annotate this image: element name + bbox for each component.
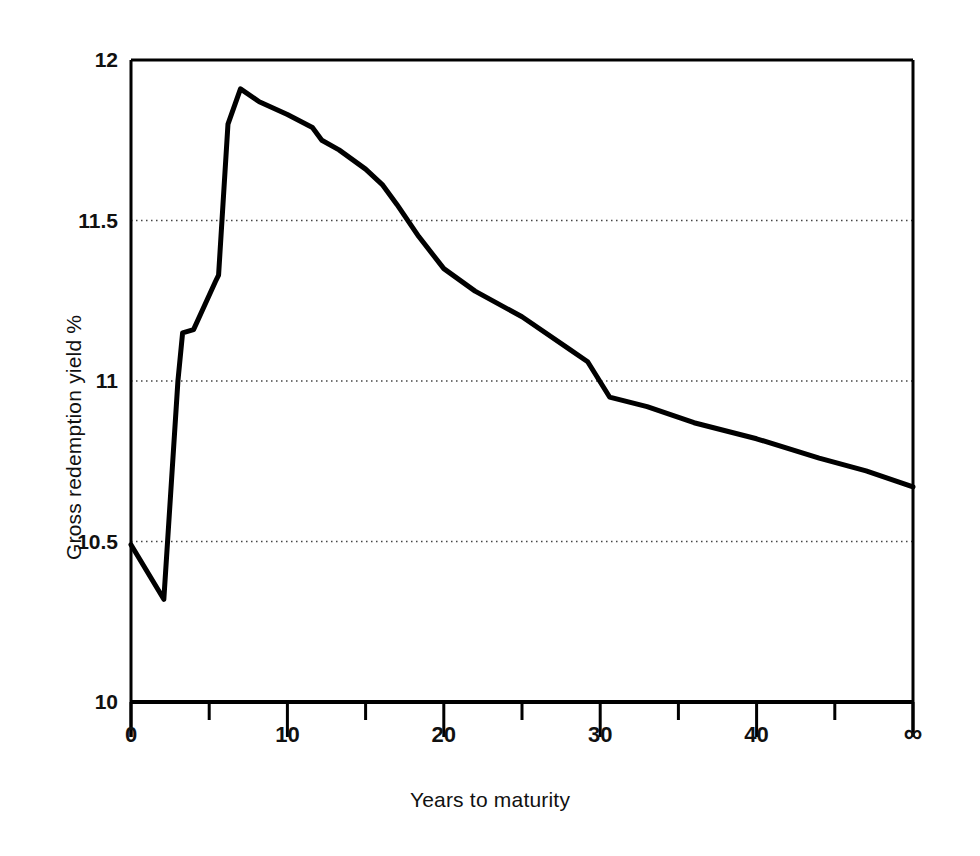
x-tick-label: ∞ <box>883 722 943 744</box>
y-tick-label: 10 <box>48 690 118 714</box>
x-axis-title: Years to maturity <box>0 788 980 812</box>
x-tick-label: 0 <box>101 722 161 748</box>
x-axis-ticks <box>131 702 913 737</box>
x-tick-label: 10 <box>257 722 317 748</box>
x-tick-label: 30 <box>570 722 630 748</box>
x-tick-label: 20 <box>414 722 474 748</box>
yield-curve-line <box>131 89 913 599</box>
y-tick-label: 11.5 <box>48 209 118 233</box>
gridlines <box>131 221 913 542</box>
y-tick-label: 11 <box>48 369 118 393</box>
y-tick-label: 10.5 <box>48 530 118 554</box>
y-tick-label: 12 <box>48 48 118 72</box>
x-tick-label: 40 <box>727 722 787 748</box>
axis-frame <box>131 60 913 737</box>
chart-figure: Gross redemption yield % 1211.51110.510 … <box>0 0 980 856</box>
